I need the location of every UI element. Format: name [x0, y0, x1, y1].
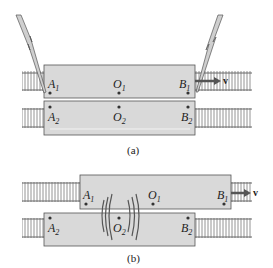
caption-a: (a): [127, 144, 140, 157]
figure-b: A1 O1 B1 A2 O2 B2 v (b): [22, 175, 258, 265]
velocity-label-a: v: [223, 75, 228, 86]
relativity-train-diagram: A1 O1 B1 A2 O2 B2 v (a): [0, 0, 273, 268]
figure-a: A1 O1 B1 A2 O2 B2 v (a): [16, 15, 252, 157]
velocity-label-b: v: [253, 187, 258, 198]
caption-b: (b): [127, 252, 140, 265]
